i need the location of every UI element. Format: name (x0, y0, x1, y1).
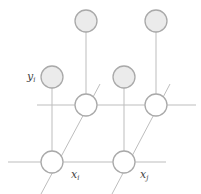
label-x-i-sub: i (77, 174, 79, 182)
top-observed-node-1 (75, 10, 97, 32)
label-x-j: xj (140, 168, 149, 182)
label-x-i: xi (71, 168, 79, 182)
mid-observed-node (113, 66, 135, 88)
xi-hidden-node (41, 151, 63, 173)
top-observed-node-2 (145, 10, 167, 32)
yi-observed-node (41, 66, 63, 88)
label-y-i-sub: i (33, 76, 35, 84)
crf-grid-diagram: yi xi xj (0, 0, 201, 194)
nodes (41, 10, 167, 173)
xj-hidden-node (113, 151, 135, 173)
upper-hidden-node-1 (75, 94, 97, 116)
label-y-i: yi (26, 70, 35, 84)
upper-hidden-node-2 (145, 94, 167, 116)
edges (8, 32, 196, 194)
